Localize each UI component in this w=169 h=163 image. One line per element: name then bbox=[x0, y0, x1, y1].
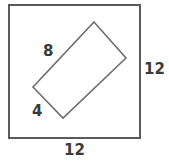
inscribed-rectangle-shape bbox=[33, 22, 126, 118]
geometry-figure: 8 4 12 12 bbox=[0, 0, 169, 163]
square-bottom-side-label: 12 bbox=[64, 143, 85, 158]
rectangle-short-side-label: 4 bbox=[32, 104, 42, 119]
outer-square-shape bbox=[9, 5, 140, 138]
rectangle-long-side-label: 8 bbox=[43, 44, 53, 59]
square-right-side-label: 12 bbox=[144, 62, 165, 77]
figure-canvas bbox=[0, 0, 169, 163]
